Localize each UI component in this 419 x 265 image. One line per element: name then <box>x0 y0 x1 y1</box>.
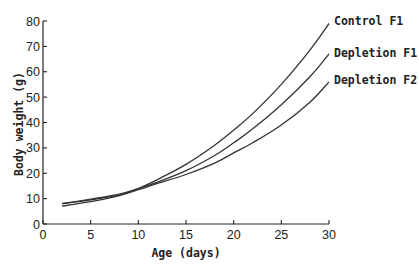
growth-chart: 01020304050607080 051015202530 Control F… <box>0 0 419 265</box>
x-tick-label: 5 <box>87 228 94 242</box>
y-tick-label: 30 <box>26 141 40 155</box>
x-axis-title: Age (days) <box>151 246 220 260</box>
y-axis-title: Body weight (g) <box>12 72 26 176</box>
x-tick-label: 10 <box>131 228 145 242</box>
series-label: Depletion F1 <box>334 46 417 60</box>
axes <box>43 21 329 224</box>
y-tick-label: 10 <box>26 192 40 206</box>
series-label: Depletion F2 <box>334 73 417 87</box>
y-tick-label: 50 <box>26 91 40 105</box>
x-ticks: 051015202530 <box>40 220 336 242</box>
x-tick-label: 30 <box>322 228 336 242</box>
x-tick-label: 20 <box>227 228 241 242</box>
series-label: Control F1 <box>334 14 403 28</box>
series-lines <box>62 24 329 207</box>
x-tick-label: 15 <box>179 228 193 242</box>
y-tick-label: 60 <box>26 65 40 79</box>
y-tick-label: 70 <box>26 40 40 54</box>
y-ticks: 01020304050607080 <box>26 15 47 232</box>
y-tick-label: 20 <box>26 167 40 181</box>
x-tick-label: 25 <box>274 228 288 242</box>
series-line-control-f1 <box>62 24 329 204</box>
series-line-depletion-f2 <box>62 82 329 206</box>
y-tick-label: 40 <box>26 116 40 130</box>
x-tick-label: 0 <box>40 228 47 242</box>
y-tick-label: 80 <box>26 15 40 29</box>
series-labels: Control F1Depletion F1Depletion F2 <box>334 14 417 87</box>
